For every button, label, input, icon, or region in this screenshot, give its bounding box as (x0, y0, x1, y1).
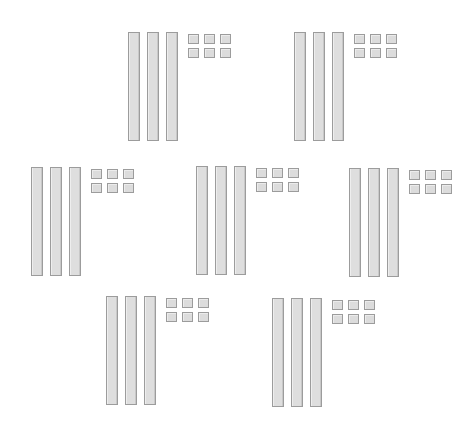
tens-rod (313, 32, 325, 141)
unit-cube (198, 298, 209, 308)
unit-cube (123, 169, 134, 179)
unit-cube (425, 170, 436, 180)
unit-cube (166, 312, 177, 322)
unit-cube (256, 182, 267, 192)
block-group-6 (106, 296, 210, 406)
unit-cube (272, 168, 283, 178)
unit-cube (188, 48, 199, 58)
base-ten-blocks-figure (0, 0, 476, 430)
unit-cube (288, 182, 299, 192)
unit-cube (332, 314, 343, 324)
unit-cube (386, 48, 397, 58)
unit-cube (166, 298, 177, 308)
tens-rod (387, 168, 399, 277)
unit-cube (204, 48, 215, 58)
block-group-5 (349, 168, 453, 278)
tens-rod (234, 166, 246, 275)
unit-cube (198, 312, 209, 322)
tens-rod (147, 32, 159, 141)
tens-rod (128, 32, 140, 141)
unit-cube (425, 184, 436, 194)
unit-cube (354, 34, 365, 44)
unit-cube (386, 34, 397, 44)
tens-rod (144, 296, 156, 405)
block-group-1 (128, 32, 232, 142)
block-group-4 (196, 166, 300, 276)
unit-cube (370, 48, 381, 58)
tens-rod (368, 168, 380, 277)
unit-cube (348, 314, 359, 324)
tens-rod (31, 167, 43, 276)
block-group-2 (294, 32, 398, 142)
tens-rod (291, 298, 303, 407)
unit-cube (364, 314, 375, 324)
unit-cube (370, 34, 381, 44)
unit-cube (441, 184, 452, 194)
unit-cube (91, 169, 102, 179)
tens-rod (294, 32, 306, 141)
unit-cube (288, 168, 299, 178)
unit-cube (409, 170, 420, 180)
tens-rod (310, 298, 322, 407)
unit-cube (256, 168, 267, 178)
unit-cube (91, 183, 102, 193)
unit-cube (107, 183, 118, 193)
tens-rod (332, 32, 344, 141)
tens-rod (166, 32, 178, 141)
tens-rod (215, 166, 227, 275)
tens-rod (349, 168, 361, 277)
unit-cube (107, 169, 118, 179)
tens-rod (69, 167, 81, 276)
unit-cube (364, 300, 375, 310)
tens-rod (50, 167, 62, 276)
unit-cube (182, 298, 193, 308)
unit-cube (441, 170, 452, 180)
unit-cube (348, 300, 359, 310)
tens-rod (272, 298, 284, 407)
unit-cube (354, 48, 365, 58)
unit-cube (123, 183, 134, 193)
tens-rod (196, 166, 208, 275)
unit-cube (332, 300, 343, 310)
tens-rod (125, 296, 137, 405)
unit-cube (182, 312, 193, 322)
unit-cube (272, 182, 283, 192)
block-group-7 (272, 298, 376, 408)
tens-rod (106, 296, 118, 405)
unit-cube (188, 34, 199, 44)
block-group-3 (31, 167, 135, 277)
unit-cube (220, 48, 231, 58)
unit-cube (220, 34, 231, 44)
unit-cube (204, 34, 215, 44)
unit-cube (409, 184, 420, 194)
